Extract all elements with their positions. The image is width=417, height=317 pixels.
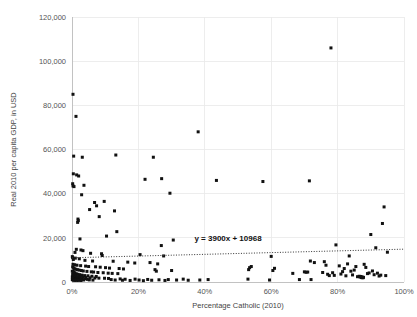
data-point: [273, 267, 276, 270]
data-point: [118, 267, 121, 270]
data-point: [197, 130, 200, 133]
data-point: [386, 251, 389, 254]
data-point: [298, 278, 301, 281]
data-point: [146, 278, 149, 281]
trendline: [72, 249, 404, 258]
data-point: [84, 265, 87, 268]
data-point: [250, 265, 253, 268]
data-point: [268, 279, 271, 282]
data-point: [80, 193, 83, 196]
y-axis-title: Real 2010 per capita GDP, in USD: [9, 92, 18, 207]
trendline-equation-label: y = 3900x + 10968: [194, 234, 262, 243]
data-point: [353, 269, 356, 272]
data-point: [83, 259, 86, 262]
data-point: [76, 221, 79, 224]
y-tick-label: 60,000: [43, 145, 66, 154]
data-point: [247, 268, 250, 271]
data-point: [261, 180, 264, 183]
data-point: [368, 271, 371, 274]
data-point: [99, 266, 102, 269]
data-point: [215, 179, 218, 182]
x-tick-label: 80%: [330, 287, 345, 296]
data-point: [384, 274, 387, 277]
data-point: [168, 192, 171, 195]
data-point: [72, 185, 75, 188]
x-axis-tick-labels: 0%20%40%60%80%100%: [67, 287, 414, 296]
data-point: [344, 274, 347, 277]
y-tick-label: 100,000: [39, 57, 66, 66]
data-point: [87, 265, 90, 268]
data-point: [349, 270, 352, 273]
data-point: [324, 264, 327, 267]
data-point: [133, 262, 136, 265]
data-point: [362, 276, 365, 279]
plot-area: 020,00040,00060,00080,000100,000120,000 …: [0, 0, 417, 317]
data-point: [134, 278, 137, 281]
x-axis-title: Percentage Catholic (2010): [192, 301, 284, 310]
data-point: [162, 254, 165, 257]
data-point: [309, 260, 312, 263]
data-point: [207, 278, 210, 281]
data-point: [160, 177, 163, 180]
data-point: [92, 271, 95, 274]
data-point: [306, 271, 309, 274]
data-point: [114, 279, 117, 282]
data-point: [374, 246, 377, 249]
data-point: [187, 279, 190, 282]
data-point: [348, 254, 351, 257]
data-point: [75, 248, 78, 251]
data-point: [122, 267, 125, 270]
data-point: [152, 156, 155, 159]
data-point: [334, 243, 337, 246]
data-point: [103, 200, 106, 203]
data-point: [81, 249, 84, 252]
data-point: [364, 266, 367, 269]
data-point: [341, 270, 344, 273]
data-point: [354, 265, 357, 268]
data-point: [73, 251, 76, 254]
data-point: [82, 184, 85, 187]
data-point: [160, 244, 163, 247]
data-point: [163, 279, 166, 282]
data-point: [155, 270, 158, 273]
data-point: [129, 279, 132, 282]
data-point: [95, 204, 98, 207]
data-point: [89, 252, 92, 255]
data-point: [77, 175, 80, 178]
data-point: [72, 93, 75, 96]
y-tick-label: 0: [62, 278, 66, 287]
y-axis-tick-labels: 020,00040,00060,00080,000100,000120,000: [39, 13, 66, 287]
data-point: [78, 237, 81, 240]
data-point: [72, 172, 75, 175]
data-point: [107, 272, 110, 275]
data-point: [107, 277, 110, 280]
data-point: [331, 271, 334, 274]
data-point: [126, 261, 129, 264]
x-tick-label: 40%: [197, 287, 212, 296]
data-point: [102, 271, 105, 274]
data-point: [144, 178, 147, 181]
data-point: [175, 279, 178, 282]
data-point: [323, 260, 326, 263]
data-point: [72, 258, 75, 261]
data-point: [138, 279, 141, 282]
data-point: [198, 279, 201, 282]
data-point: [170, 269, 173, 272]
data-point: [373, 273, 376, 276]
data-point: [116, 272, 119, 275]
data-point: [108, 267, 111, 270]
y-tick-label: 20,000: [43, 234, 66, 243]
data-point: [383, 205, 386, 208]
data-point: [270, 255, 273, 258]
data-point: [121, 279, 124, 282]
data-point: [104, 266, 107, 269]
data-point: [112, 260, 115, 263]
data-point: [329, 46, 332, 49]
data-point: [157, 278, 160, 281]
data-point: [379, 274, 382, 277]
y-tick-label: 80,000: [43, 101, 66, 110]
scatter-chart: 020,00040,00060,00080,000100,000120,000 …: [0, 0, 417, 317]
data-point: [150, 279, 153, 282]
data-point: [338, 264, 341, 267]
data-point: [115, 230, 118, 233]
